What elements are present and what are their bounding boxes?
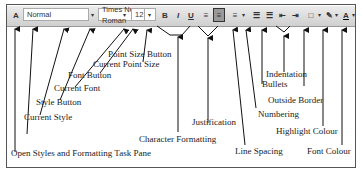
label-highlight-colour: Highlight Colour [276, 126, 338, 136]
label-bullets: Bullets [262, 79, 288, 89]
label-line-spacing: Line Spacing [235, 146, 283, 156]
label-current-font: Current Font [54, 83, 100, 93]
label-outside-border: Outside Border [268, 95, 323, 105]
label-style-button: Style Button [36, 97, 81, 107]
label-open-styles: Open Styles and Formatting Task Pane [11, 148, 151, 158]
label-character-formatting: Character Formatting [139, 134, 216, 144]
label-indentation: Indentation [266, 69, 307, 79]
label-point-size-button: Point Size Button [108, 49, 172, 59]
label-current-point-size: Current Point Size [93, 59, 160, 69]
label-current-style: Current Style [24, 112, 72, 122]
label-justification: Justification [192, 117, 236, 127]
label-font-button: Font Button [68, 70, 111, 80]
label-font-colour: Font Colour [307, 146, 351, 156]
label-numbering: Numbering [258, 109, 299, 119]
